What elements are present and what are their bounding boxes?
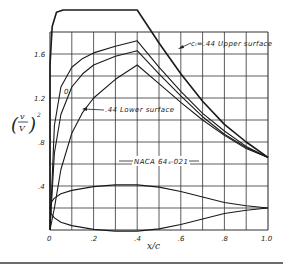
y-tick-label: .4: [38, 183, 45, 191]
annotation-upper-surface: cₗ=.44 Upper surface: [178, 40, 273, 49]
x-tick-label: .6: [178, 235, 185, 243]
y-tick-label: 1.2: [34, 95, 46, 103]
x-tick-label: .8: [221, 235, 228, 243]
lower-surface-label: .44 Lower surface: [105, 106, 174, 114]
y-tick-label: .8: [38, 139, 45, 147]
x-tick-label: 1.0: [261, 235, 273, 243]
y-axis-label: ( v V ) 2: [11, 111, 41, 135]
axis-ticks: 0.2.4.6.81.0.4.81.21.6: [34, 51, 273, 243]
zero-lift-label: 0: [64, 88, 69, 96]
x-tick-label: .4: [134, 235, 141, 243]
annotation-profile: NACA 64₄-021: [119, 156, 199, 166]
svg-text:): ): [28, 114, 36, 135]
svg-text:V: V: [19, 124, 26, 133]
annotation-lower-surface: .44 Lower surface: [82, 106, 174, 114]
chart-grid: [50, 32, 268, 230]
page-divider: [0, 262, 283, 264]
y-tick-label: 1.6: [34, 51, 46, 59]
svg-text:(: (: [11, 114, 19, 135]
x-axis-label: x/c: [147, 241, 160, 251]
upper-surface-label: cₗ=.44 Upper surface: [191, 40, 273, 48]
profile-label: NACA 64₄-021: [134, 158, 188, 166]
pressure-distribution-chart: 0.2.4.6.81.0.4.81.21.6 cₗ=.44 Upper surf…: [0, 0, 283, 265]
svg-text:2: 2: [36, 111, 41, 118]
x-tick-label: .2: [91, 235, 98, 243]
x-tick-label: 0: [47, 235, 52, 243]
svg-text:v: v: [20, 112, 25, 121]
